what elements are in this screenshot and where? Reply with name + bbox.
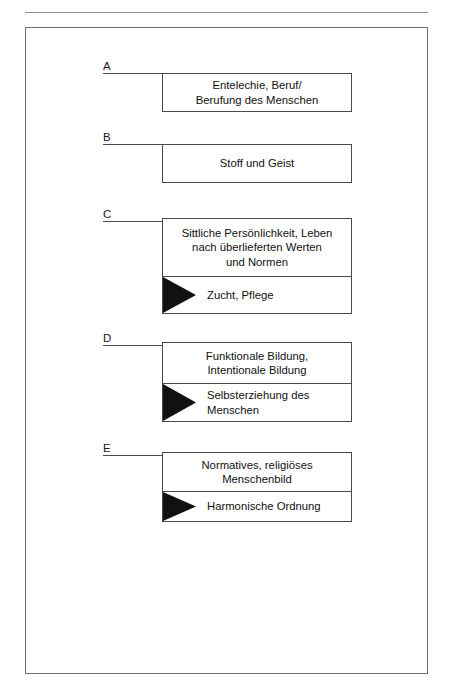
box-a: Entelechie, Beruf/ Berufung des Menschen: [162, 73, 352, 112]
box-e-row-1: Normatives, religiöses Menschenbild: [163, 453, 351, 491]
box-d-row-2: Selbsterziehung des Menschen: [163, 383, 351, 421]
box-a-text-1: Entelechie, Beruf/ Berufung des Menschen: [163, 78, 351, 107]
leader-line-b: [103, 144, 162, 145]
box-d-text-1: Funktionale Bildung, Intentionale Bildun…: [163, 349, 351, 378]
leader-line-c: [103, 221, 162, 222]
box-c-text-1: Sittliche Persönlichkeit, Leben nach übe…: [163, 226, 351, 270]
leader-line-d: [103, 345, 162, 346]
box-d-text-2: Selbsterziehung des Menschen: [163, 388, 351, 417]
leader-line-e: [103, 455, 162, 456]
box-a-row-1: Entelechie, Beruf/ Berufung des Menschen: [163, 74, 351, 111]
group-label-a: A: [103, 60, 111, 72]
box-e-text-1: Normatives, religiöses Menschenbild: [163, 458, 351, 487]
box-c-text-2: Zucht, Pflege: [163, 288, 351, 303]
box-b: Stoff und Geist: [162, 144, 352, 183]
box-d: Funktionale Bildung, Intentionale Bildun…: [162, 342, 352, 422]
box-c-row-1: Sittliche Persönlichkeit, Leben nach übe…: [163, 219, 351, 276]
group-label-b: B: [103, 131, 111, 143]
group-label-e: E: [103, 442, 111, 454]
box-e-text-2: Harmonische Ordnung: [163, 499, 351, 514]
group-label-d: D: [103, 332, 112, 344]
page-top-rule: [25, 12, 428, 13]
box-c-row-2: Zucht, Pflege: [163, 276, 351, 313]
box-e: Normatives, religiöses MenschenbildHarmo…: [162, 452, 352, 522]
leader-line-a: [103, 73, 162, 74]
box-d-row-1: Funktionale Bildung, Intentionale Bildun…: [163, 343, 351, 383]
box-b-row-1: Stoff und Geist: [163, 145, 351, 182]
group-label-c: C: [103, 208, 112, 220]
box-e-row-2: Harmonische Ordnung: [163, 491, 351, 521]
figure-page: AEntelechie, Beruf/ Berufung des Mensche…: [0, 0, 453, 696]
box-b-text-1: Stoff und Geist: [163, 156, 351, 171]
box-c: Sittliche Persönlichkeit, Leben nach übe…: [162, 218, 352, 314]
